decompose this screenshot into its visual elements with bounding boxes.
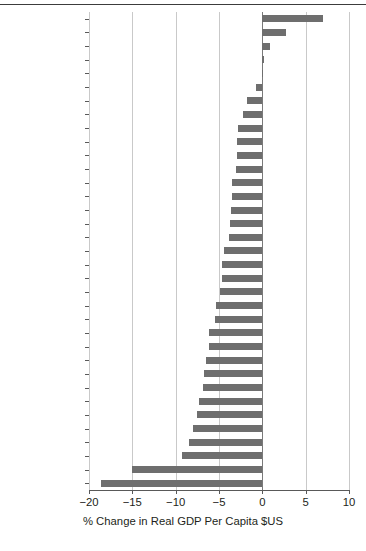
bar <box>209 343 263 350</box>
bar <box>193 425 262 432</box>
y-axis-tick <box>85 483 89 484</box>
bar <box>199 398 262 405</box>
bar <box>262 29 285 36</box>
bar-row <box>89 149 349 163</box>
bar-row <box>89 80 349 94</box>
x-axis-tick <box>262 490 263 494</box>
bar <box>262 43 270 50</box>
x-axis-title: % Change in Real GDP Per Capita $US <box>0 515 366 527</box>
y-axis-tick <box>85 46 89 47</box>
bar-row <box>89 435 349 449</box>
y-axis-tick <box>85 60 89 61</box>
bar <box>262 15 323 22</box>
bar-row <box>89 422 349 436</box>
bar <box>224 247 262 254</box>
y-axis-tick <box>85 251 89 252</box>
bar <box>256 84 262 91</box>
x-axis-tick-label: −10 <box>156 496 196 509</box>
bar-row <box>89 190 349 204</box>
bar <box>222 261 262 268</box>
x-axis-tick <box>132 490 133 494</box>
y-axis-tick <box>85 19 89 20</box>
y-axis-tick <box>85 142 89 143</box>
bar <box>247 97 263 104</box>
x-axis-tick-label: 10 <box>329 496 366 509</box>
bar <box>132 466 262 473</box>
bar-row <box>89 285 349 299</box>
bar-row <box>89 408 349 422</box>
bar-row <box>89 449 349 463</box>
y-axis-tick <box>85 114 89 115</box>
x-axis-tick <box>89 490 90 494</box>
bar-row <box>89 244 349 258</box>
bar-row <box>89 231 349 245</box>
bar-row <box>89 340 349 354</box>
bar <box>197 411 262 418</box>
bar <box>215 316 263 323</box>
bar <box>101 480 262 487</box>
bar <box>231 207 262 214</box>
y-axis-tick <box>85 374 89 375</box>
y-axis-tick <box>85 415 89 416</box>
bar-row <box>89 476 349 490</box>
y-axis-tick <box>85 388 89 389</box>
bar <box>236 166 262 173</box>
y-axis-tick <box>85 306 89 307</box>
x-axis-tick-label: 0 <box>242 496 282 509</box>
bar <box>229 234 263 241</box>
gridline-10 <box>349 12 350 490</box>
bar-row <box>89 12 349 26</box>
bar-row <box>89 26 349 40</box>
x-axis-tick <box>219 490 220 494</box>
bar-row <box>89 67 349 81</box>
y-axis-tick <box>85 319 89 320</box>
bar <box>216 302 263 309</box>
y-axis-tick <box>85 183 89 184</box>
bar <box>203 384 263 391</box>
bar-row <box>89 299 349 313</box>
bar <box>232 193 262 200</box>
y-axis-tick <box>85 442 89 443</box>
bar <box>262 56 264 63</box>
gdp-per-capita-bar-chart: −20−15−10−50510 % Change in Real GDP Per… <box>0 0 366 551</box>
x-axis-tick <box>349 490 350 494</box>
bar <box>262 70 263 77</box>
y-axis-tick <box>85 470 89 471</box>
y-axis-tick <box>85 360 89 361</box>
bar-row <box>89 121 349 135</box>
x-axis-tick-label: −5 <box>199 496 239 509</box>
bar <box>209 329 263 336</box>
y-axis-tick <box>85 224 89 225</box>
bar-row <box>89 258 349 272</box>
bar-row <box>89 39 349 53</box>
bar <box>232 179 262 186</box>
bar-row <box>89 53 349 67</box>
bar <box>182 452 263 459</box>
y-axis-tick <box>85 456 89 457</box>
y-axis-tick <box>85 429 89 430</box>
bar <box>243 111 262 118</box>
y-axis-tick <box>85 347 89 348</box>
bar-row <box>89 176 349 190</box>
y-axis-tick <box>85 128 89 129</box>
bar-row <box>89 394 349 408</box>
y-axis-tick <box>85 32 89 33</box>
bar-row <box>89 381 349 395</box>
y-axis-tick <box>85 169 89 170</box>
y-axis-tick <box>85 237 89 238</box>
bar-row <box>89 162 349 176</box>
bar <box>237 138 262 145</box>
top-divider-rule <box>0 4 366 5</box>
y-axis-tick <box>85 401 89 402</box>
y-axis-tick <box>85 278 89 279</box>
bar-row <box>89 217 349 231</box>
bar <box>238 125 262 132</box>
y-axis-tick <box>85 73 89 74</box>
bar <box>204 370 262 377</box>
bar-row <box>89 94 349 108</box>
bar <box>220 288 262 295</box>
bar <box>237 152 262 159</box>
x-axis-tick-label: −20 <box>69 496 109 509</box>
bar <box>222 275 263 282</box>
bar-row <box>89 312 349 326</box>
